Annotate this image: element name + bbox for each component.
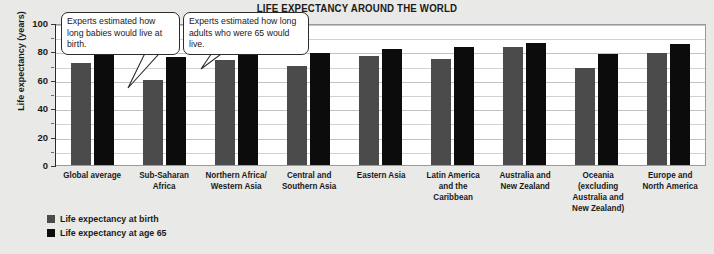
y-tick-label: 60 [22,75,48,86]
callout-age65: Experts estimated how long adults who we… [183,12,309,55]
x-axis-label: Global average [58,170,126,214]
y-tick-minor [51,123,54,124]
bar-group [489,25,561,165]
x-axis-label: Australia andNew Zealand [491,170,559,214]
x-axis-label: Central andSouthern Asia [275,170,343,214]
y-tick-minor [51,95,54,96]
bar-group [417,25,489,165]
bar-age65 [382,49,402,165]
y-tick-label: 100 [22,18,48,29]
bar-age65 [94,49,114,165]
chart-container: LIFE EXPECTANCY AROUND THE WORLD Life ex… [0,0,714,254]
x-axis-label: Northern Africa/Western Asia [203,170,271,214]
bar-birth [287,66,307,165]
legend-item-age65: Life expectancy at age 65 [47,226,172,240]
legend-label-birth: Life expectancy at birth [60,214,159,224]
y-tick-label: 20 [22,132,48,143]
y-tick-minor [51,38,54,39]
bar-age65 [670,44,690,165]
x-axis-label: Latin Americaand theCaribbean [419,170,487,214]
bar-age65 [526,43,546,165]
bar-birth [575,68,595,165]
y-tick-major [51,166,56,167]
bar-birth [647,53,667,165]
bar-age65 [166,57,186,165]
x-axis-label: Oceania(excludingAustralia andNew Zealan… [564,170,632,214]
bar-birth [431,59,451,166]
bar-birth [215,60,235,165]
y-tick-minor [51,67,54,68]
bar-age65 [598,54,618,165]
bar-birth [503,47,523,165]
x-axis-label: Sub-SaharanAfrica [130,170,198,214]
x-axis-label: Europe andNorth America [636,170,704,214]
y-tick-label: 40 [22,103,48,114]
legend-item-birth: Life expectancy at birth [47,212,172,226]
legend-swatch-age65 [47,229,55,237]
x-axis-labels: Global averageSub-SaharanAfricaNorthern … [56,170,706,214]
legend-label-age65: Life expectancy at age 65 [60,228,167,238]
legend: Life expectancy at birth Life expectancy… [47,212,172,240]
legend-swatch-birth [47,215,55,223]
y-tick-minor [51,152,54,153]
y-tick-label: 80 [22,46,48,57]
bar-group [561,25,633,165]
bar-age65 [238,51,258,165]
callout-birth-text: Experts estimated how long babies would … [67,16,171,51]
callout-birth: Experts estimated how long babies would … [61,12,180,55]
x-axis-label: Eastern Asia [347,170,415,214]
bar-age65 [310,53,330,165]
callout-age65-text: Experts estimated how long adults who we… [189,16,300,51]
bar-birth [143,80,163,165]
bar-group [633,25,705,165]
y-tick-label: 0 [22,160,48,171]
bar-birth [359,56,379,165]
bar-group [344,25,416,165]
bar-birth [71,63,91,165]
bar-age65 [454,47,474,165]
